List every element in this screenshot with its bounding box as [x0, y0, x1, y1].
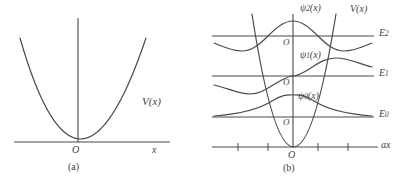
panel-a-potential-label: V(x) [142, 96, 161, 107]
wavefunction-label-psi2: ψ2(x) [300, 3, 321, 13]
figure-canvas [0, 0, 411, 179]
psi0-tail: (x) [308, 90, 319, 101]
panel-a-graphics [14, 18, 170, 142]
panel-a-x-axis-label: x [152, 145, 156, 155]
panel-a-origin-label: O [72, 145, 79, 155]
energy-level-label-E0: E0 [379, 109, 389, 119]
energy-level-label-E1: E1 [379, 68, 389, 78]
panel-b-origin-label-E0: O [283, 118, 290, 127]
psi2-tail: (x) [310, 2, 321, 13]
panel-a-caption: (a) [68, 162, 79, 172]
panel-a-potential-curve [20, 38, 146, 139]
panel-b-origin-label-E2: O [283, 38, 290, 47]
wavefunction-label-psi1: ψ1(x) [300, 50, 321, 60]
panel-b-origin-label-E1: O [283, 78, 290, 87]
panel-b-potential-curve [252, 14, 336, 147]
E2-subscript: 2 [385, 30, 389, 38]
psi1-tail: (x) [310, 49, 321, 60]
figure-harmonic-oscillator: V(x) O x (a) V(x) ψ2(x) ψ1(x) ψ0(x) E2 E… [0, 0, 411, 179]
wavefunction-label-psi0: ψ0(x) [298, 91, 319, 101]
panel-b-origin-label-axis: O [288, 150, 295, 160]
E0-subscript: 0 [385, 111, 389, 119]
panel-b-graphics [212, 14, 378, 151]
E1-subscript: 1 [385, 70, 389, 78]
energy-level-label-E2: E2 [379, 28, 389, 38]
panel-b-x-axis-label: ax [381, 140, 390, 150]
panel-b-caption: (b) [283, 163, 295, 173]
panel-b-potential-label: V(x) [350, 4, 367, 14]
